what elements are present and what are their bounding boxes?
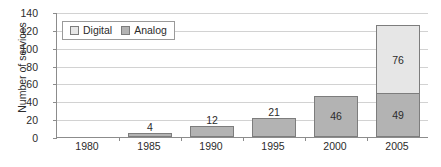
x-tick-label: 1980: [57, 141, 117, 152]
chart-legend: Digital Analog: [62, 21, 175, 40]
bar-group[interactable]: 46: [314, 96, 358, 137]
bar-group[interactable]: 12: [190, 126, 234, 137]
y-tick-label: 140: [8, 8, 38, 19]
legend-item-digital: Digital: [70, 25, 112, 36]
legend-item-analog: Analog: [121, 25, 167, 36]
bar-chart: Number of services 020406080100120140 41…: [0, 0, 441, 167]
x-tick-label: 1995: [243, 141, 303, 152]
x-tick-label: 1990: [181, 141, 241, 152]
bar-value-label: 76: [392, 55, 404, 66]
y-tick-label: 100: [8, 44, 38, 55]
bar-group[interactable]: 21: [252, 118, 296, 137]
bar-value-label: 4: [129, 122, 171, 135]
legend-swatch-digital-icon: [70, 26, 79, 35]
bar-value-label: 49: [392, 110, 404, 121]
y-tick-label: 40: [8, 97, 38, 108]
y-tick-label: 20: [8, 115, 38, 126]
bar-segment-analog[interactable]: 46: [314, 96, 358, 137]
y-tick-label: 60: [8, 79, 38, 90]
x-tick-label: 1985: [119, 141, 179, 152]
y-tick-label: 80: [8, 62, 38, 73]
legend-label-digital: Digital: [83, 25, 112, 36]
y-tick-mark: [53, 138, 57, 139]
legend-swatch-analog-icon: [121, 26, 130, 35]
x-tick-label: 2005: [367, 141, 427, 152]
bar-segment-analog[interactable]: 4: [128, 133, 172, 137]
y-tick-label: 120: [8, 26, 38, 37]
bar-group[interactable]: 4976: [376, 25, 420, 137]
bar-segment-analog[interactable]: 49: [376, 93, 420, 137]
bar-value-label: 12: [191, 115, 233, 128]
bar-value-label: 46: [330, 111, 342, 122]
bar-group[interactable]: 4: [128, 133, 172, 137]
bar-segment-digital[interactable]: 76: [376, 25, 420, 93]
y-tick-label: 0: [8, 133, 38, 144]
bar-value-label: 21: [253, 107, 295, 120]
legend-label-analog: Analog: [134, 25, 167, 36]
bar-segment-analog[interactable]: 12: [190, 126, 234, 137]
x-tick-label: 2000: [305, 141, 365, 152]
bar-segment-analog[interactable]: 21: [252, 118, 296, 137]
